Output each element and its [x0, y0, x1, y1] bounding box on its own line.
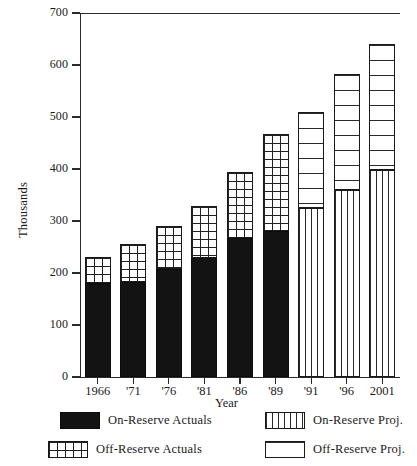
- legend-swatch-icon: [265, 441, 305, 458]
- y-tick-label: 400: [22, 161, 68, 176]
- y-tick-label: 700: [22, 5, 68, 20]
- bar-stack: [227, 172, 253, 377]
- y-tick-mark: [72, 220, 80, 221]
- y-tick-mark: [72, 324, 80, 325]
- legend-label: Off-Reserve Proj.: [313, 442, 405, 457]
- y-tick-label: 100: [22, 317, 68, 332]
- y-tick-mark: [72, 376, 80, 377]
- bar-segment: [227, 238, 253, 377]
- bar-stack: [369, 44, 395, 377]
- bar-segment: [298, 208, 324, 377]
- legend-swatch-icon: [48, 441, 88, 458]
- x-axis-title: Year: [18, 396, 417, 411]
- y-tick-mark: [72, 168, 80, 169]
- legend-label: On-Reserve Actuals: [108, 413, 212, 428]
- bar-segment: [85, 283, 111, 377]
- bar-segment: [263, 134, 289, 232]
- y-tick-label: 300: [22, 213, 68, 228]
- bar-segment: [263, 231, 289, 377]
- bar-segment: [191, 258, 217, 377]
- bar-stack: [298, 112, 324, 377]
- bar-segment: [120, 282, 146, 377]
- y-tick-mark: [72, 116, 80, 117]
- bar-segment: [334, 74, 360, 189]
- y-tick-label: 500: [22, 109, 68, 124]
- bar-segment: [191, 206, 217, 258]
- bar-segment: [298, 112, 324, 208]
- bar-stack: [191, 206, 217, 377]
- bar-segment: [334, 190, 360, 377]
- legend-item[interactable]: On-Reserve Proj.: [265, 412, 403, 429]
- bar-segment: [156, 269, 182, 377]
- chart-root: Thousands 0100200300400500600700 1966'71…: [0, 0, 417, 466]
- bar-stack: [156, 226, 182, 377]
- legend-swatch-icon: [265, 412, 305, 429]
- bar-segment: [156, 226, 182, 269]
- legend-item[interactable]: On-Reserve Actuals: [60, 412, 212, 429]
- y-tick-mark: [72, 272, 80, 273]
- bar-stack: [120, 244, 146, 377]
- legend-label: Off-Reserve Actuals: [96, 442, 202, 457]
- y-tick-mark: [72, 64, 80, 65]
- legend-item[interactable]: Off-Reserve Actuals: [48, 441, 202, 458]
- y-tick-label: 0: [22, 369, 68, 384]
- y-tick-label: 600: [22, 57, 68, 72]
- bar-stack: [334, 74, 360, 377]
- legend-swatch-icon: [60, 412, 100, 429]
- bar-segment: [369, 44, 395, 170]
- y-tick-label: 200: [22, 265, 68, 280]
- bar-segment: [369, 170, 395, 377]
- bar-segment: [85, 257, 111, 283]
- y-axis-title: Thousands: [2, 30, 17, 150]
- bar-stack: [263, 134, 289, 377]
- bar-segment: [120, 244, 146, 281]
- y-tick-mark: [72, 12, 80, 13]
- chart-legend: On-Reserve ActualsOn-Reserve Proj.Off-Re…: [0, 410, 417, 466]
- legend-item[interactable]: Off-Reserve Proj.: [265, 441, 405, 458]
- legend-label: On-Reserve Proj.: [313, 413, 403, 428]
- bar-stack: [85, 257, 111, 377]
- bar-segment: [227, 172, 253, 238]
